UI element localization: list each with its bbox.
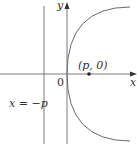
focus-point bbox=[87, 72, 91, 76]
y-axis-arrow-icon bbox=[65, 2, 70, 9]
parabola-diagram bbox=[0, 0, 137, 153]
origin-label: 0 bbox=[57, 77, 64, 88]
focus-label: (p, 0) bbox=[78, 60, 108, 71]
x-axis-label: x bbox=[130, 77, 136, 88]
y-axis-label: y bbox=[57, 0, 63, 11]
directrix-label: x = −p bbox=[9, 98, 48, 109]
